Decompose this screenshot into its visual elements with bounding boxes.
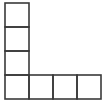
cell-col0-row3 [5, 75, 29, 99]
l-shaped-polyomino-figure [0, 0, 104, 105]
cell-col2-row3 [53, 75, 77, 99]
cell-col0-row1 [5, 27, 29, 51]
cell-col1-row3 [29, 75, 53, 99]
cell-col0-row0 [5, 3, 29, 27]
figure-container [0, 0, 104, 105]
cell-col3-row3 [77, 75, 101, 99]
cell-col0-row2 [5, 51, 29, 75]
